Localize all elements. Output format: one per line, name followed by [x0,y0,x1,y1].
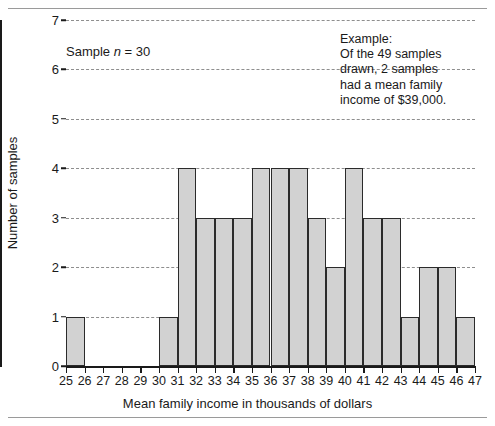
x-tick-mark-37 [289,367,290,373]
y-tick-label-5: 5 [52,112,59,125]
example-note-line-0: Example: [340,32,446,47]
bar [382,218,401,366]
x-tick-mark-36 [271,367,272,373]
y-tick-label-4: 4 [52,162,59,175]
x-tick-label-47: 47 [468,375,482,388]
y-tick-label-3: 3 [52,211,59,224]
y-tick-label-6: 6 [52,63,59,76]
bar [252,168,271,366]
y-tick-label-0: 0 [52,360,59,373]
bar [215,218,234,366]
x-tick-label-45: 45 [431,375,445,388]
top-divider [8,8,487,9]
bar [438,267,457,366]
x-tick-mark-40 [345,367,346,373]
x-tick-mark-35 [252,367,253,373]
x-tick-label-30: 30 [152,375,166,388]
x-tick-label-37: 37 [282,375,296,388]
x-tick-mark-28 [122,367,123,373]
x-tick-label-42: 42 [375,375,389,388]
x-tick-label-29: 29 [133,375,147,388]
sample-size-prefix: Sample [66,44,114,59]
x-tick-label-41: 41 [357,375,371,388]
y-tick-label-1: 1 [52,310,59,323]
y-tick-label-2: 2 [52,261,59,274]
x-tick-label-38: 38 [301,375,315,388]
bar [345,168,364,366]
x-tick-mark-34 [233,367,234,373]
x-tick-mark-42 [382,367,383,373]
bar [419,267,438,366]
example-note-line-4: income of $39,000. [340,93,446,108]
x-tick-label-39: 39 [319,375,333,388]
x-tick-label-32: 32 [189,375,203,388]
example-note-line-1: Of the 49 samples [340,47,446,62]
x-tick-label-40: 40 [338,375,352,388]
sample-size-note: Sample n = 30 [66,44,150,59]
bar [326,267,345,366]
example-note: Example:Of the 49 samplesdrawn, 2 sample… [340,32,446,108]
bottom-divider [8,417,487,418]
bar [401,317,420,366]
x-tick-label-26: 26 [78,375,92,388]
x-tick-label-34: 34 [226,375,240,388]
bar [289,168,308,366]
x-tick-mark-43 [401,367,402,373]
bar [178,168,197,366]
x-tick-label-33: 33 [208,375,222,388]
x-tick-mark-44 [419,367,420,373]
x-tick-mark-29 [140,367,141,373]
bar [233,218,252,366]
x-tick-mark-30 [159,367,160,373]
x-tick-label-31: 31 [171,375,185,388]
x-tick-mark-38 [308,367,309,373]
x-tick-mark-39 [326,367,327,373]
x-tick-mark-47 [475,367,476,373]
y-axis-label: Number of samples [5,137,20,250]
bar [308,218,327,366]
x-tick-mark-26 [85,367,86,373]
bar [456,317,475,366]
x-tick-mark-46 [456,367,457,373]
x-tick-mark-31 [178,367,179,373]
x-tick-label-25: 25 [59,375,73,388]
example-note-line-3: had a mean family [340,78,446,93]
x-tick-label-43: 43 [394,375,408,388]
x-tick-mark-33 [215,367,216,373]
y-axis-line [0,20,2,367]
bar [66,317,85,366]
example-note-line-2: drawn, 2 samples [340,62,446,77]
bar [363,218,382,366]
sample-size-suffix: = 30 [121,44,150,59]
x-tick-label-36: 36 [264,375,278,388]
x-tick-label-27: 27 [96,375,110,388]
x-axis-ticks: 2526272829303132333435363738394041424344… [66,367,476,397]
x-tick-mark-27 [103,367,104,373]
x-tick-mark-45 [438,367,439,373]
x-tick-mark-41 [363,367,364,373]
x-tick-label-35: 35 [245,375,259,388]
x-tick-label-28: 28 [115,375,129,388]
histogram-figure: 01234567 2526272829303132333435363738394… [0,0,495,426]
y-tick-label-7: 7 [52,14,59,27]
bar [196,218,215,366]
x-axis-label: Mean family income in thousands of dolla… [0,396,495,411]
bar [159,317,178,366]
x-tick-mark-25 [66,367,67,373]
x-tick-label-44: 44 [412,375,426,388]
x-tick-mark-32 [196,367,197,373]
sample-size-symbol: n [114,44,121,59]
bar [271,168,290,366]
x-tick-label-46: 46 [449,375,463,388]
